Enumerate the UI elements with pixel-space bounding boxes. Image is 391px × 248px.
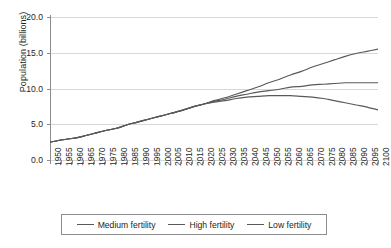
x-tick-mark — [170, 160, 171, 164]
x-tick-mark — [181, 160, 182, 164]
x-tick-mark — [236, 160, 237, 164]
x-tick-mark — [159, 160, 160, 164]
x-tick-mark — [105, 160, 106, 164]
x-tick-mark — [247, 160, 248, 164]
population-projection-chart: Population (billions) 0.05.010.015.020.0… — [0, 0, 391, 248]
x-tick-mark — [280, 160, 281, 164]
x-axis-tick-labels: 1950195519601965197019751980198519901995… — [0, 0, 391, 248]
x-tick-mark — [127, 160, 128, 164]
legend-line-swatch — [77, 224, 94, 225]
x-tick-mark — [148, 160, 149, 164]
legend-line-swatch — [168, 224, 185, 225]
x-tick-mark — [367, 160, 368, 164]
x-tick-label: 2100 — [381, 147, 391, 166]
chart-legend: Medium fertilityHigh fertilityLow fertil… — [61, 214, 327, 235]
x-tick-mark — [192, 160, 193, 164]
legend-label: Low fertility — [268, 220, 311, 230]
x-tick-mark — [312, 160, 313, 164]
legend-label: High fertility — [189, 220, 234, 230]
x-tick-mark — [345, 160, 346, 164]
x-tick-mark — [203, 160, 204, 164]
x-tick-mark — [356, 160, 357, 164]
x-tick-mark — [269, 160, 270, 164]
x-tick-mark — [50, 160, 51, 164]
legend-item[interactable]: Medium fertility — [77, 220, 156, 230]
x-tick-mark — [323, 160, 324, 164]
x-tick-mark — [258, 160, 259, 164]
x-tick-mark — [291, 160, 292, 164]
x-tick-mark — [83, 160, 84, 164]
x-tick-mark — [214, 160, 215, 164]
x-tick-mark — [334, 160, 335, 164]
x-tick-mark — [225, 160, 226, 164]
x-tick-mark — [72, 160, 73, 164]
x-tick-mark — [116, 160, 117, 164]
legend-line-swatch — [247, 224, 264, 225]
x-tick-mark — [301, 160, 302, 164]
x-tick-mark — [137, 160, 138, 164]
legend-item[interactable]: High fertility — [168, 220, 234, 230]
legend-item[interactable]: Low fertility — [247, 220, 311, 230]
legend-label: Medium fertility — [98, 220, 156, 230]
x-tick-mark — [378, 160, 379, 164]
x-tick-mark — [94, 160, 95, 164]
x-tick-mark — [61, 160, 62, 164]
